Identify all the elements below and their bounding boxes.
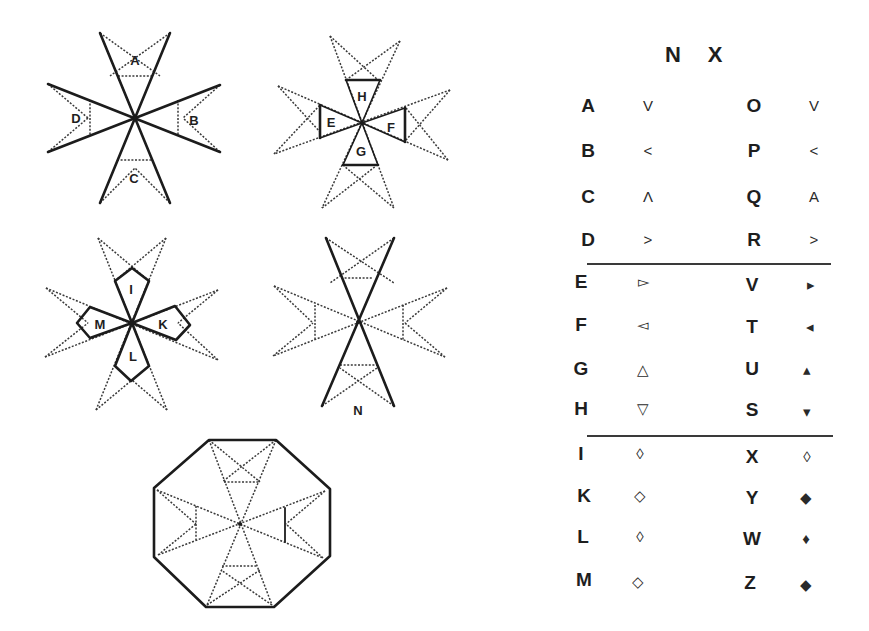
key-letter: K: [577, 485, 591, 507]
key-symbol: ◇: [632, 573, 644, 591]
key-symbol: ▾: [803, 403, 811, 421]
key-letter: L: [577, 526, 589, 548]
header-x: X: [708, 42, 723, 68]
key-symbol: ◊: [803, 448, 810, 466]
key-symbol: ▴: [803, 361, 811, 379]
key-symbol: A: [809, 188, 819, 206]
key-symbol: <: [810, 142, 819, 160]
key-letter: I: [578, 443, 583, 465]
key-letter: Z: [744, 572, 756, 594]
cipher-key-table: N X A V O V B < P < C Λ Q A D > R > E ▻ …: [0, 0, 869, 631]
key-letter: U: [745, 358, 759, 380]
key-letter: D: [581, 229, 595, 251]
key-letter: Q: [747, 186, 762, 208]
key-letter: P: [748, 140, 761, 162]
key-letter: M: [576, 569, 592, 591]
key-symbol: ▸: [807, 276, 815, 294]
key-symbol: V: [643, 97, 653, 115]
key-letter: F: [575, 314, 587, 336]
key-letter: E: [575, 271, 588, 293]
key-letter: X: [746, 446, 759, 468]
header-n: N: [665, 42, 681, 68]
key-symbol: ◅: [637, 316, 649, 334]
key-letter: B: [581, 140, 595, 162]
key-letter: R: [747, 229, 761, 251]
key-letter: H: [574, 398, 588, 420]
key-symbol: ♦: [802, 530, 810, 548]
key-letter: T: [746, 316, 758, 338]
key-letter: W: [743, 528, 761, 550]
key-symbol: V: [809, 97, 819, 115]
key-letter: A: [581, 95, 595, 117]
key-symbol: ◆: [800, 576, 812, 594]
divider-2: [587, 435, 833, 437]
key-letter: S: [746, 399, 759, 421]
key-symbol: ▻: [638, 273, 650, 291]
key-symbol: >: [810, 231, 819, 249]
key-symbol: ◊: [636, 445, 643, 463]
key-letter: O: [747, 95, 762, 117]
key-symbol: △: [637, 361, 649, 379]
key-letter: V: [746, 274, 759, 296]
key-symbol: ◇: [634, 487, 646, 505]
key-symbol: ▽: [637, 400, 649, 418]
key-symbol: ◊: [636, 528, 643, 546]
key-letter: C: [581, 186, 595, 208]
key-symbol: >: [644, 231, 653, 249]
divider-1: [587, 263, 831, 265]
key-symbol: Λ: [643, 188, 653, 206]
key-letter: G: [574, 358, 589, 380]
key-symbol: ◆: [800, 489, 812, 507]
key-letter: Y: [746, 487, 759, 509]
key-symbol: ◂: [806, 318, 814, 336]
key-symbol: <: [644, 142, 653, 160]
